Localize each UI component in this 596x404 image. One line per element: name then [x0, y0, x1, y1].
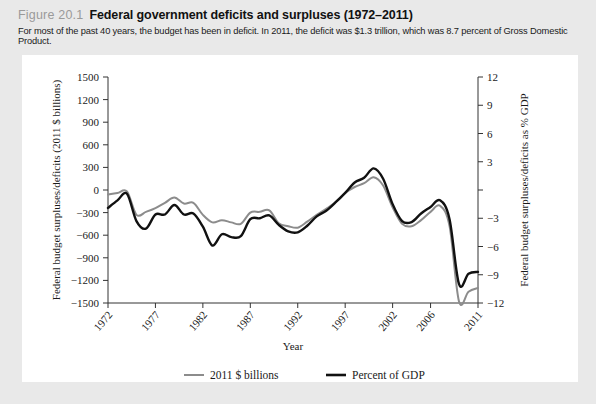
- left-axis-tick-label: −1200: [71, 274, 100, 286]
- legend-label: Percent of GDP: [352, 369, 425, 381]
- left-axis-group: 150012009006003000−300−600−900−1200−1500: [71, 71, 108, 309]
- legend-label: 2011 $ billions: [210, 369, 279, 381]
- x-axis-group: 197219771982198719921997200220062011: [91, 303, 484, 333]
- right-axis-tick-label: −12: [487, 297, 504, 309]
- right-axis-tick-label: −3: [487, 212, 499, 224]
- x-axis-tick-label: 1972: [91, 309, 114, 334]
- figure-title-line: Figure 20.1Federal government deficits a…: [18, 6, 584, 23]
- x-axis-tick-label: 1982: [186, 309, 209, 334]
- left-axis-tick-label: 900: [83, 116, 100, 128]
- right-axis-title: Federal budget surpluses/deficits as % G…: [518, 93, 530, 286]
- series-group: [108, 168, 478, 305]
- left-axis-tick-label: −600: [76, 229, 99, 241]
- axis-titles-group: Federal budget surpluses/deficits (2011 …: [50, 79, 530, 352]
- x-axis-tick-label: 1977: [139, 308, 163, 333]
- right-axis-tick-label: −9: [487, 269, 499, 281]
- figure-header: Figure 20.1Federal government deficits a…: [18, 6, 584, 46]
- left-axis-tick-label: −1500: [71, 297, 100, 309]
- chart-plate: 150012009006003000−300−600−900−1200−1500…: [22, 55, 578, 382]
- left-axis-title: Federal budget surpluses/deficits (2011 …: [50, 79, 63, 300]
- x-axis-tick-label: 2002: [376, 309, 399, 334]
- x-axis-tick-label: 1992: [281, 309, 304, 334]
- x-axis-tick-label: 1987: [234, 308, 258, 333]
- left-axis-tick-label: 1500: [77, 71, 100, 83]
- left-axis-tick-label: 1200: [77, 94, 100, 106]
- left-axis-tick-label: −900: [76, 252, 99, 264]
- right-axis-tick-label: −6: [487, 241, 499, 253]
- right-axis-tick-label: 12: [487, 71, 498, 83]
- right-axis-group: 12963−3−6−9−12: [478, 71, 504, 309]
- right-axis-tick-label: 6: [487, 128, 493, 140]
- series-line-dollars: [108, 177, 478, 305]
- figure-title-text: Federal government deficits and surpluse…: [89, 8, 412, 22]
- right-axis-tick-label: 9: [487, 99, 493, 111]
- x-axis-tick-label: 2006: [414, 308, 438, 333]
- left-axis-tick-label: 600: [83, 139, 100, 151]
- x-axis-title: Year: [283, 340, 304, 352]
- x-axis-tick-label: 1997: [328, 308, 352, 333]
- figure-subtitle: For most of the past 40 years, the budge…: [18, 26, 584, 46]
- left-axis-tick-label: 300: [83, 161, 100, 173]
- figure-page: Figure 20.1Federal government deficits a…: [0, 0, 596, 404]
- left-axis-tick-label: −300: [76, 207, 99, 219]
- right-axis-tick-label: 3: [487, 156, 493, 168]
- chart-legend: 2011 $ billionsPercent of GDP: [184, 369, 425, 381]
- chart-svg: 150012009006003000−300−600−900−1200−1500…: [22, 55, 578, 382]
- figure-number-label: Figure 20.1: [18, 8, 83, 22]
- left-axis-tick-label: 0: [94, 184, 100, 196]
- x-axis-tick-label: 2011: [461, 309, 484, 333]
